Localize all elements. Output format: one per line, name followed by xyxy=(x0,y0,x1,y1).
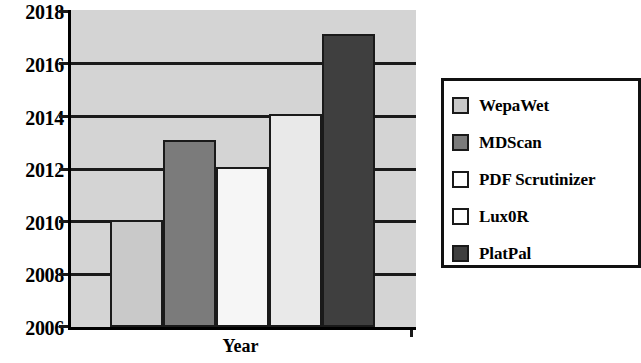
y-tick-mark-2008 xyxy=(59,273,68,276)
y-tick-mark-2014 xyxy=(59,115,68,118)
y-tick-label-2014: 2014 xyxy=(2,108,64,128)
legend-label-platpal: PlatPal xyxy=(479,245,531,263)
bar-mdscan xyxy=(163,140,216,327)
legend-item-lux0r[interactable]: Lux0R xyxy=(452,198,638,235)
legend-item-wepawet[interactable]: WepaWet xyxy=(452,87,638,124)
y-tick-mark-2006 xyxy=(59,325,68,328)
legend-swatch-pdf-scrutinizer xyxy=(452,171,469,188)
y-tick-label-2010: 2010 xyxy=(2,213,64,233)
legend-swatch-mdscan xyxy=(452,134,469,151)
legend-item-platpal[interactable]: PlatPal xyxy=(452,235,638,272)
y-tick-mark-2016 xyxy=(59,62,68,65)
y-tick-label-2018: 2018 xyxy=(2,2,64,22)
y-tick-label-2008: 2008 xyxy=(2,265,64,285)
legend-label-lux0r: Lux0R xyxy=(479,208,529,226)
y-tick-label-2012: 2012 xyxy=(2,160,64,180)
y-tick-mark-2018 xyxy=(59,10,68,13)
legend-label-pdf-scrutinizer: PDF Scrutinizer xyxy=(479,171,595,189)
plot-inner xyxy=(71,10,416,327)
bar-pdf-scrutinizer xyxy=(216,167,269,327)
x-axis-label: Year xyxy=(68,336,413,356)
plot-area xyxy=(68,10,416,330)
legend: WepaWet MDScan PDF Scrutinizer Lux0R Pla… xyxy=(441,78,641,268)
bar-wepawet xyxy=(110,220,163,327)
legend-item-pdf-scrutinizer[interactable]: PDF Scrutinizer xyxy=(452,161,638,198)
legend-item-mdscan[interactable]: MDScan xyxy=(452,124,638,161)
legend-swatch-wepawet xyxy=(452,97,469,114)
y-tick-mark-2012 xyxy=(59,168,68,171)
y-tick-mark-2010 xyxy=(59,220,68,223)
bar-platpal xyxy=(322,34,375,327)
bar-lux0r xyxy=(269,114,322,327)
legend-swatch-lux0r xyxy=(452,208,469,225)
legend-swatch-platpal xyxy=(452,245,469,262)
y-tick-label-2006: 2006 xyxy=(2,318,64,338)
y-tick-label-2016: 2016 xyxy=(2,55,64,75)
legend-label-mdscan: MDScan xyxy=(479,134,542,152)
legend-label-wepawet: WepaWet xyxy=(479,97,549,115)
